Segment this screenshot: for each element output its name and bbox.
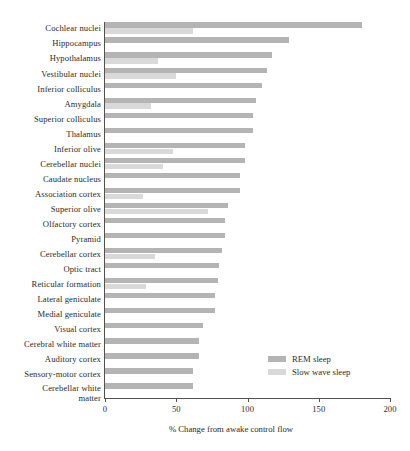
bar-rem-sleep [105, 218, 225, 223]
bar-rem-sleep [105, 52, 272, 57]
x-tick [248, 398, 249, 402]
bar-rem-sleep [105, 368, 193, 373]
legend-swatch-rem-sleep [268, 356, 286, 362]
category-label: Amygdala [0, 100, 101, 110]
bar-rem-sleep [105, 143, 245, 148]
category-label: Inferior olive [0, 145, 101, 155]
category-label: Thalamus [0, 130, 101, 140]
category-label: Cochlear nuclei [0, 24, 101, 34]
category-label: Cerebellar nuclei [0, 160, 101, 170]
x-tick [390, 398, 391, 402]
category-label: Vestibular nuclei [0, 70, 101, 80]
x-tick-label: 200 [370, 404, 410, 414]
x-tick-label: 100 [228, 404, 268, 414]
bar-rem-sleep [105, 278, 218, 283]
category-label: Hippocampus [0, 39, 101, 49]
bar-slow-wave-sleep [105, 73, 176, 78]
bar-row [105, 67, 390, 82]
x-tick [319, 398, 320, 402]
bar-row [105, 127, 390, 142]
bar-row [105, 233, 390, 248]
category-label: Association cortex [0, 190, 101, 200]
legend-item-slow-wave-sleep: Slow wave sleep [268, 366, 350, 377]
bar-row [105, 172, 390, 187]
bar-row [105, 37, 390, 52]
bar-rem-sleep [105, 188, 240, 193]
bar-rem-sleep [105, 383, 193, 388]
bar-rem-sleep [105, 173, 240, 178]
bar-rem-sleep [105, 233, 225, 238]
bar-row [105, 293, 390, 308]
legend-item-rem-sleep: REM sleep [268, 353, 350, 364]
x-tick-label: 50 [156, 404, 196, 414]
x-axis-title: % Change from awake control flow [0, 424, 410, 434]
bar-row [105, 157, 390, 172]
bar-rem-sleep [105, 37, 289, 42]
blood-flow-bar-chart: Cochlear nucleiHippocampusHypothalamusVe… [0, 0, 410, 451]
category-label: Auditory cortex [0, 355, 101, 365]
bar-rem-sleep [105, 308, 215, 313]
category-label: Olfactory cortex [0, 220, 101, 230]
bar-row [105, 82, 390, 97]
category-label: Sensory-motor cortex [0, 370, 101, 380]
bar-slow-wave-sleep [105, 164, 163, 169]
bar-rem-sleep [105, 113, 253, 118]
bar-rem-sleep [105, 128, 253, 133]
legend-swatch-slow-wave-sleep [268, 369, 286, 375]
x-tick-label: 150 [299, 404, 339, 414]
bar-row [105, 97, 390, 112]
bar-row [105, 202, 390, 217]
bar-rem-sleep [105, 323, 203, 328]
category-label: Superior olive [0, 205, 101, 215]
bar-row [105, 308, 390, 323]
legend-label-slow-wave-sleep: Slow wave sleep [292, 367, 350, 377]
bar-row [105, 263, 390, 278]
bar-row [105, 52, 390, 67]
bar-row [105, 112, 390, 127]
category-label: Hypothalamus [0, 54, 101, 64]
category-label: Lateral geniculate [0, 295, 101, 305]
bar-rem-sleep [105, 22, 362, 27]
category-label: Cerebellar cortex [0, 250, 101, 260]
chart-legend: REM sleep Slow wave sleep [268, 353, 350, 379]
x-tick-label: 0 [85, 404, 125, 414]
category-label: Cerebral white matter [0, 340, 101, 350]
category-label: Caudate nucleus [0, 175, 101, 185]
x-tick [105, 398, 106, 402]
bar-rem-sleep [105, 338, 199, 343]
bar-slow-wave-sleep [105, 254, 155, 259]
bar-row [105, 248, 390, 263]
bar-row [105, 383, 390, 398]
bar-rem-sleep [105, 293, 215, 298]
bar-slow-wave-sleep [105, 103, 151, 108]
bar-row [105, 142, 390, 157]
bar-rows [105, 22, 390, 398]
plot-area [105, 22, 390, 398]
bar-row [105, 338, 390, 353]
category-label: Optic tract [0, 265, 101, 275]
bar-rem-sleep [105, 158, 245, 163]
bar-rem-sleep [105, 98, 256, 103]
category-axis-labels: Cochlear nucleiHippocampusHypothalamusVe… [0, 22, 101, 398]
bar-rem-sleep [105, 68, 267, 73]
category-label: Cerebellar white matter [0, 384, 101, 403]
category-label: Visual cortex [0, 325, 101, 335]
bar-slow-wave-sleep [105, 209, 208, 214]
bar-row [105, 187, 390, 202]
bar-row [105, 323, 390, 338]
bar-rem-sleep [105, 203, 228, 208]
bar-rem-sleep [105, 263, 219, 268]
bar-row [105, 278, 390, 293]
category-label: Reticular formation [0, 280, 101, 290]
bar-slow-wave-sleep [105, 28, 193, 33]
category-label: Inferior colliculus [0, 85, 101, 95]
bar-row [105, 218, 390, 233]
category-label: Superior colliculus [0, 115, 101, 125]
bar-slow-wave-sleep [105, 149, 173, 154]
bar-slow-wave-sleep [105, 284, 146, 289]
category-label: Pyramid [0, 235, 101, 245]
bar-row [105, 22, 390, 37]
legend-label-rem-sleep: REM sleep [292, 354, 331, 364]
bar-rem-sleep [105, 248, 222, 253]
bar-slow-wave-sleep [105, 194, 143, 199]
